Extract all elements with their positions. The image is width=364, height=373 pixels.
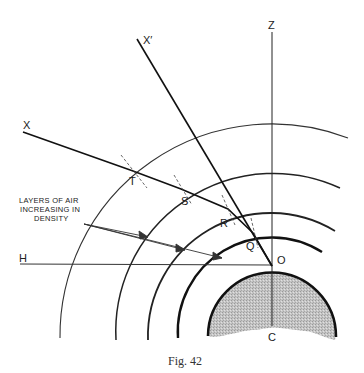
annotation-line-3: DENSITY: [34, 214, 69, 223]
label-h: H: [19, 252, 27, 264]
figure-caption: Fig. 42: [168, 354, 202, 368]
label-x: X: [23, 119, 31, 131]
label-t: T: [129, 175, 136, 187]
refraction-diagram: X X′ Z H O C T S R Q LAYERS OF AIR INCRE…: [0, 0, 364, 373]
horizon-line: [20, 264, 272, 265]
label-z: Z: [268, 19, 275, 31]
label-s: S: [181, 195, 188, 207]
annotation-line-1: LAYERS OF AIR: [19, 196, 79, 205]
label-o: O: [277, 254, 286, 266]
label-x-prime: X′: [143, 34, 152, 46]
label-q: Q: [246, 240, 255, 252]
label-c: C: [268, 331, 276, 343]
label-r: R: [220, 217, 228, 229]
annotation-line-2: INCREASING IN: [20, 205, 80, 214]
